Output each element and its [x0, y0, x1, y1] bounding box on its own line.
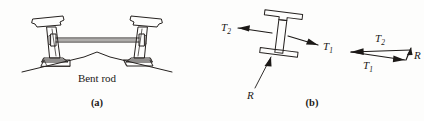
right-tie-plate	[124, 60, 153, 66]
bent-rod-caption: Bent rod	[78, 72, 117, 84]
panel-a-group: Bent rod (a)	[22, 16, 172, 109]
figure-canvas: Bent rod (a) T2	[0, 0, 424, 121]
panel-b-group: T2 T1 R	[221, 10, 421, 109]
force-triangle: T2 T1 R	[351, 32, 421, 74]
part-label-a: (a)	[91, 97, 104, 109]
force-vector-R	[255, 57, 272, 88]
force-vector-T2	[238, 25, 272, 33]
triangle-label-T2: T2	[375, 32, 385, 47]
triangle-edge-T2	[351, 48, 411, 55]
left-tie-plate	[41, 60, 70, 66]
force-vector-T1	[288, 36, 318, 45]
left-rod-nut	[49, 34, 56, 46]
force-label-T1: T1	[323, 40, 333, 55]
triangle-edge-T1	[351, 52, 405, 62]
force-label-T2: T2	[221, 21, 231, 36]
triangle-label-R: R	[413, 49, 421, 61]
force-label-R: R	[246, 89, 254, 101]
left-rail	[32, 16, 68, 62]
bent-rod	[56, 38, 139, 42]
i-beam-section	[260, 10, 303, 57]
part-label-b: (b)	[306, 97, 319, 109]
figure-root: Bent rod (a) T2	[0, 0, 424, 121]
triangle-label-T1: T1	[363, 59, 373, 74]
